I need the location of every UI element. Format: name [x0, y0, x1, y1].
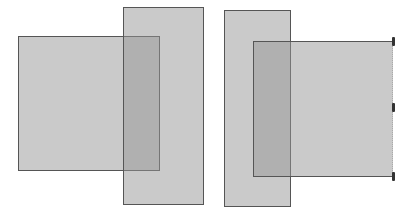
resize-handle-bottom[interactable]: [392, 172, 395, 181]
resize-handle-top[interactable]: [392, 37, 395, 46]
diagram-canvas: [0, 0, 408, 218]
resize-handle-middle[interactable]: [392, 103, 395, 112]
left-tall-rectangle[interactable]: [123, 7, 204, 205]
right-wide-rectangle[interactable]: [253, 41, 393, 177]
